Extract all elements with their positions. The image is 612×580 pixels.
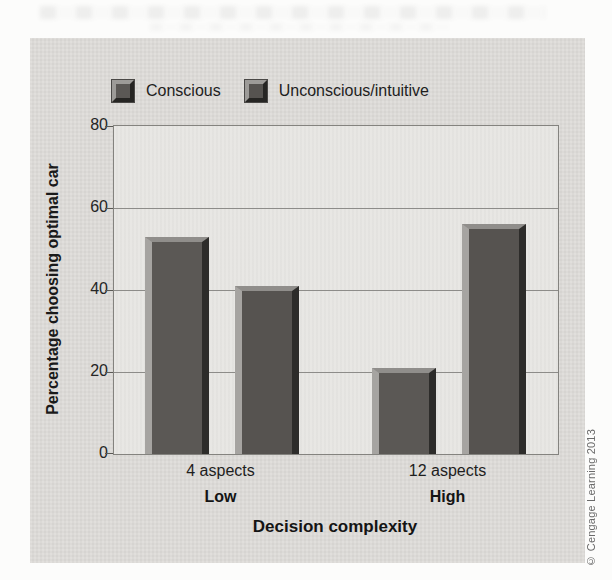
bar-unconscious-intuitive-12-aspects — [462, 224, 526, 454]
y-tick-labels: 020406080 — [68, 125, 108, 453]
y-tick-label-0: 0 — [68, 443, 108, 463]
y-tickmark-0 — [105, 453, 113, 454]
print-bleed-artifact — [150, 23, 450, 31]
legend-swatch-conscious — [112, 80, 134, 102]
x-axis-title: Decision complexity — [113, 517, 557, 537]
plot-area — [113, 125, 559, 455]
legend-item-unconscious: Unconscious/intuitive — [245, 80, 429, 102]
legend-swatch-unconscious — [245, 80, 267, 102]
copyright-notice: © Cengage Learning 2013 — [585, 429, 597, 567]
bar-conscious-4-aspects — [145, 237, 209, 454]
gridline-60 — [114, 208, 558, 209]
legend: Conscious Unconscious/intuitive — [112, 80, 429, 102]
legend-label-unconscious: Unconscious/intuitive — [279, 80, 429, 102]
x-tick-label-2: 12 aspects — [409, 461, 486, 481]
legend-item-conscious: Conscious — [112, 80, 221, 102]
y-axis-title-text: Percentage choosing optimal car — [44, 163, 62, 415]
y-tickmark-80 — [105, 126, 113, 127]
x-tick-group-2: 12 aspectsHigh — [409, 461, 486, 507]
x-axis-labels: 4 aspectsLow12 aspectsHigh — [113, 453, 557, 513]
y-tick-label-60: 60 — [68, 197, 108, 217]
x-tick-sublabel-2: High — [409, 487, 486, 507]
x-tick-sublabel-1: Low — [186, 487, 254, 507]
y-tick-label-40: 40 — [68, 279, 108, 299]
x-tick-label-1: 4 aspects — [186, 461, 254, 481]
bar-conscious-12-aspects — [372, 368, 436, 454]
print-bleed-artifact — [40, 6, 545, 19]
y-tickmark-20 — [105, 372, 113, 373]
figure-panel: Conscious Unconscious/intuitive Percenta… — [30, 38, 585, 563]
bar-unconscious-intuitive-4-aspects — [235, 286, 299, 454]
legend-label-conscious: Conscious — [146, 80, 221, 102]
y-tick-label-20: 20 — [68, 361, 108, 381]
y-tickmark-60 — [105, 208, 113, 209]
x-tick-group-1: 4 aspectsLow — [186, 461, 254, 507]
page: Conscious Unconscious/intuitive Percenta… — [0, 0, 612, 580]
y-tick-label-80: 80 — [68, 115, 108, 135]
y-tickmark-40 — [105, 290, 113, 291]
